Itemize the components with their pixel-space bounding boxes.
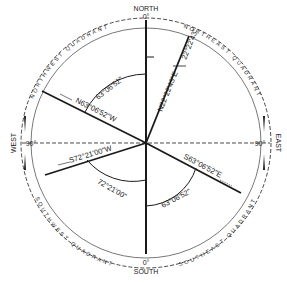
leader-sw <box>58 162 70 165</box>
north-label: NORTH <box>134 5 159 12</box>
angle-label-ne: 22°22'43" <box>180 27 201 60</box>
east-arrow-down-icon <box>263 154 265 170</box>
angle-label-nw: 63°06'52" <box>94 75 125 102</box>
bearing-line-se <box>146 143 241 193</box>
quadrant-sw-label: SOUTHWEST QUADRANT <box>34 196 114 268</box>
bearing-label-sw: S72°21'00"W <box>68 143 114 165</box>
west-label: WEST <box>10 132 17 153</box>
quadrant-nw-label: NORTHWEST QUADRANT <box>29 23 110 99</box>
leader-nw <box>60 94 72 100</box>
east-arrow-up-icon <box>263 116 265 132</box>
south-label: SOUTH <box>134 268 159 275</box>
west-degree: 90° <box>26 140 37 147</box>
west-arrow-up-icon <box>24 116 26 132</box>
bearing-label-ne: N22°22'43"E <box>156 70 180 113</box>
east-degree: 90° <box>255 140 266 147</box>
west-arrow-down-icon <box>24 154 26 170</box>
bearing-diagram: NORTH 0° 0° SOUTH 90° WEST 90° EAST NORT… <box>0 0 287 283</box>
north-degree: 0° <box>143 13 150 20</box>
south-degree: 0° <box>143 259 150 266</box>
quadrant-se-label: SOUTHEAST QUADRANT <box>178 196 257 267</box>
angle-arc-sw <box>87 160 146 181</box>
angle-label-se: 63°06'52" <box>160 187 193 210</box>
east-label: EAST <box>275 134 282 153</box>
